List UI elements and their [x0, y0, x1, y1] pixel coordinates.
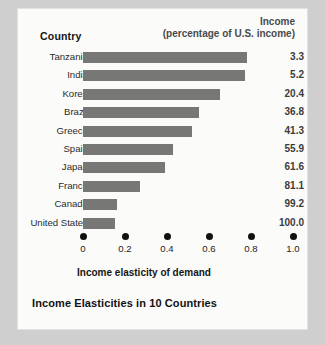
bar	[83, 89, 220, 100]
income-value: 36.8	[246, 106, 304, 117]
bar	[83, 162, 165, 173]
axis-tick-dot	[80, 233, 87, 240]
income-value: 99.2	[246, 198, 304, 209]
bar	[83, 199, 117, 210]
column-header-income: Income (percentage of U.S. income)	[163, 16, 295, 40]
bar	[83, 107, 199, 118]
chart-row: United States100.0	[18, 215, 307, 233]
bar	[83, 181, 140, 192]
country-label: Korea	[0, 88, 88, 99]
chart-row: Canada99.2	[18, 196, 307, 214]
country-label: Brazil	[0, 106, 88, 117]
chart-row: Korea20.4	[18, 86, 307, 104]
bar	[83, 218, 115, 229]
axis-tick-dot	[206, 233, 213, 240]
axis-tick-label: 1.0	[273, 243, 313, 254]
income-value: 100.0	[246, 217, 304, 228]
axis-tick-dot	[290, 233, 297, 240]
chart-header: Country Income (percentage of U.S. incom…	[18, 9, 307, 49]
chart-row: Brazil36.8	[18, 104, 307, 122]
axis-tick-dot	[122, 233, 129, 240]
chart-row: Tanzania3.3	[18, 49, 307, 67]
column-header-country: Country	[40, 30, 82, 42]
x-axis-label: Income elasticity of demand	[18, 267, 270, 278]
country-label: Tanzania	[0, 51, 88, 62]
bar	[83, 144, 173, 155]
bar	[83, 70, 245, 81]
axis-tick-label: 0.4	[147, 243, 187, 254]
country-label: India	[0, 69, 88, 80]
country-label: Spain	[0, 143, 88, 154]
income-header-line1: Income	[163, 16, 295, 28]
axis-tick-label: 0.8	[231, 243, 271, 254]
income-value: 55.9	[246, 143, 304, 154]
country-label: United States	[0, 217, 88, 228]
income-value: 61.6	[246, 161, 304, 172]
axis-tick-dot	[248, 233, 255, 240]
axis-tick-label: 0	[63, 243, 103, 254]
chart-rows: Tanzania3.3India5.2Korea20.4Brazil36.8Gr…	[18, 49, 307, 233]
income-value: 3.3	[246, 51, 304, 62]
chart-row: Spain55.9	[18, 141, 307, 159]
axis-tick-label: 0.2	[105, 243, 145, 254]
country-label: Canada	[0, 198, 88, 209]
country-label: Japan	[0, 161, 88, 172]
chart-row: France81.1	[18, 178, 307, 196]
axis-tick-dot	[164, 233, 171, 240]
chart-row: Greece41.3	[18, 123, 307, 141]
bar	[83, 52, 247, 63]
income-value: 5.2	[246, 69, 304, 80]
country-label: Greece	[0, 125, 88, 136]
income-value: 20.4	[246, 88, 304, 99]
chart-caption: Income Elasticities in 10 Countries	[32, 297, 217, 309]
income-value: 41.3	[246, 125, 304, 136]
x-axis: 00.20.40.60.81.0	[18, 233, 307, 267]
bar	[83, 126, 192, 137]
country-label: France	[0, 180, 88, 191]
chart-row: Japan61.6	[18, 159, 307, 177]
axis-tick-label: 0.6	[189, 243, 229, 254]
income-header-line2: (percentage of U.S. income)	[163, 28, 295, 40]
chart-card: Country Income (percentage of U.S. incom…	[18, 9, 307, 329]
chart-row: India5.2	[18, 67, 307, 85]
income-value: 81.1	[246, 180, 304, 191]
